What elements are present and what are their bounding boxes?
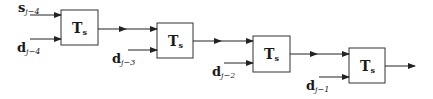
input-s-j-4: sj−4 (18, 0, 61, 16)
input-d-j-3: dj−3 (112, 50, 157, 67)
input-d-j-2: dj−2 (212, 63, 253, 80)
svg-text:dj−1: dj−1 (306, 78, 329, 94)
input-d-j-1: dj−1 (306, 77, 349, 94)
svg-text:sj−4: sj−4 (18, 0, 40, 16)
svg-text:dj−4: dj−4 (17, 40, 40, 56)
block-diagram: Ts Ts Ts Ts sj−4 dj−4 dj−3 dj−2 (0, 0, 433, 99)
svg-text:dj−3: dj−3 (112, 51, 135, 67)
block-ts-3: Ts (253, 36, 290, 72)
svg-text:dj−2: dj−2 (212, 64, 235, 80)
block-ts-2: Ts (157, 23, 193, 58)
block-ts-4: Ts (349, 48, 385, 83)
input-d-j-4: dj−4 (17, 39, 61, 56)
block-ts-1: Ts (61, 10, 98, 45)
